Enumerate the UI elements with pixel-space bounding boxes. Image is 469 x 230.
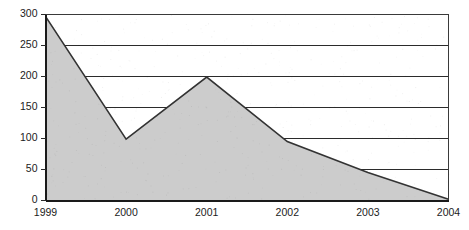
y-tick-label-250: 250 bbox=[20, 38, 38, 50]
x-tick-label-1999: 1999 bbox=[34, 206, 58, 218]
x-tick-label-2000: 2000 bbox=[114, 206, 138, 218]
y-tick-label-300: 300 bbox=[20, 7, 38, 19]
y-tick-label-200: 200 bbox=[20, 69, 38, 81]
y-tick-label-50: 50 bbox=[26, 162, 38, 174]
y-tick-label-0: 0 bbox=[32, 193, 38, 205]
x-tick-label-2002: 2002 bbox=[276, 206, 300, 218]
area-chart-figure: 050100150200250300 199920002001200220032… bbox=[0, 0, 469, 230]
y-tick-label-150: 150 bbox=[20, 100, 38, 112]
x-tick-label-2001: 2001 bbox=[195, 206, 219, 218]
x-tick-label-2004: 2004 bbox=[437, 206, 461, 218]
x-tick-label-2003: 2003 bbox=[356, 206, 380, 218]
y-tick-label-100: 100 bbox=[20, 131, 38, 143]
chart-canvas: 050100150200250300 199920002001200220032… bbox=[0, 0, 469, 230]
